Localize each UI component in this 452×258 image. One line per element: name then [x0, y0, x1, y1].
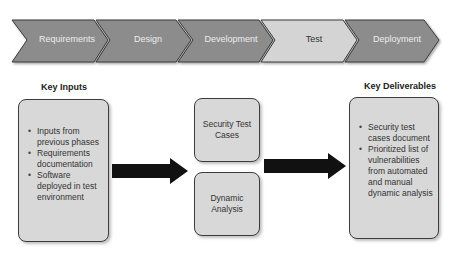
- key-inputs-box: Inputs from previous phases Requirements…: [18, 99, 109, 242]
- key-deliverable-item: Security test cases document: [368, 122, 434, 144]
- phase-label-test: Test: [277, 31, 351, 47]
- phase-label-requirements: Requirements: [28, 31, 106, 47]
- activity-label: Security Test Cases: [195, 119, 259, 141]
- flow-arrow-inputs-to-activities: [112, 158, 190, 184]
- key-input-item: Requirements documentation: [37, 148, 104, 170]
- key-deliverable-item: Prioritized list of vulnerabilities from…: [368, 144, 434, 199]
- activity-label: Dynamic Analysis: [195, 193, 259, 215]
- key-input-item: Software deployed in test environment: [37, 170, 104, 203]
- phase-label-deployment: Deployment: [360, 31, 434, 47]
- key-inputs-title: Key Inputs: [20, 82, 108, 92]
- activity-security-test-cases: Security Test Cases: [194, 98, 260, 162]
- key-input-item: Inputs from previous phases: [37, 126, 104, 148]
- activity-dynamic-analysis: Dynamic Analysis: [194, 172, 260, 236]
- key-deliverables-title: Key Deliverables: [350, 81, 450, 91]
- key-inputs-list: Inputs from previous phases Requirements…: [23, 126, 104, 203]
- key-deliverables-box: Security test cases document Prioritized…: [349, 97, 439, 239]
- flow-arrow-activities-to-deliverables: [264, 153, 348, 179]
- key-deliverables-list: Security test cases document Prioritized…: [354, 122, 434, 199]
- phase-label-development: Development: [194, 31, 268, 47]
- phase-label-design: Design: [112, 31, 184, 47]
